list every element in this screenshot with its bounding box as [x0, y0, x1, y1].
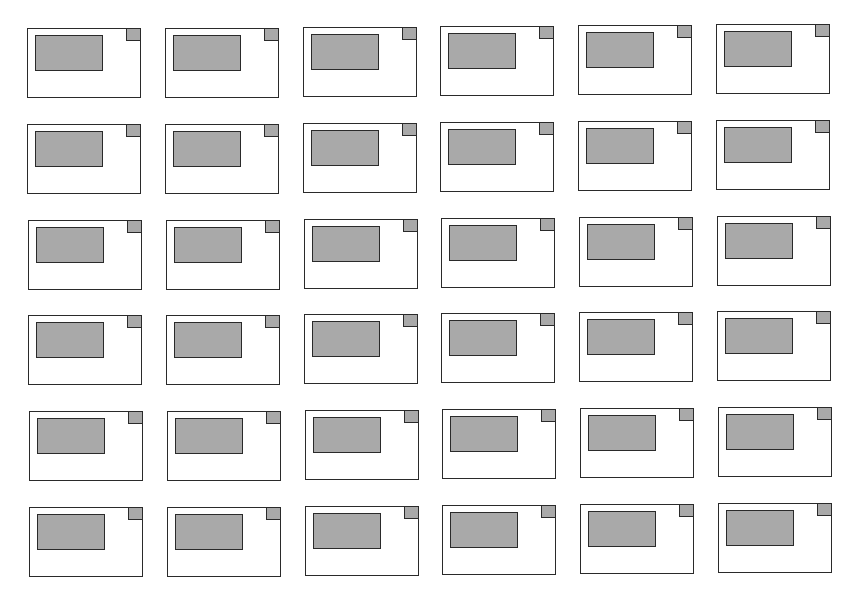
corner-tab-icon [126, 124, 141, 137]
card-thumbnail[interactable] [578, 121, 692, 191]
content-block [725, 318, 793, 354]
corner-tab-icon [266, 411, 281, 424]
card-thumbnail[interactable] [579, 312, 693, 382]
content-block [726, 414, 794, 450]
card-thumbnail[interactable] [441, 313, 555, 383]
card-thumbnail[interactable] [718, 407, 832, 477]
corner-tab-icon [677, 25, 692, 38]
card-thumbnail[interactable] [303, 123, 417, 193]
card-thumbnail[interactable] [28, 315, 142, 385]
card-thumbnail[interactable] [29, 507, 143, 577]
content-block [35, 35, 103, 71]
card-thumbnail[interactable] [165, 124, 279, 194]
card-thumbnail[interactable] [27, 124, 141, 194]
card-thumbnail[interactable] [580, 504, 694, 574]
content-block [174, 227, 242, 263]
content-block [449, 225, 517, 261]
card-thumbnail[interactable] [717, 311, 831, 381]
content-block [37, 418, 105, 454]
card-thumbnail[interactable] [717, 216, 831, 286]
card-thumbnail[interactable] [28, 220, 142, 290]
card-thumbnail[interactable] [304, 314, 418, 384]
content-block [587, 224, 655, 260]
corner-tab-icon [539, 122, 554, 135]
content-block [175, 418, 243, 454]
corner-tab-icon [541, 409, 556, 422]
card-thumbnail[interactable] [442, 409, 556, 479]
corner-tab-icon [403, 219, 418, 232]
corner-tab-icon [540, 313, 555, 326]
card-thumbnail[interactable] [304, 219, 418, 289]
corner-tab-icon [817, 407, 832, 420]
card-thumbnail[interactable] [579, 217, 693, 287]
corner-tab-icon [816, 216, 831, 229]
corner-tab-icon [539, 26, 554, 39]
card-thumbnail[interactable] [27, 28, 141, 98]
card-thumbnail[interactable] [167, 507, 281, 577]
content-block [450, 512, 518, 548]
corner-tab-icon [265, 315, 280, 328]
card-thumbnail[interactable] [716, 24, 830, 94]
card-thumbnail[interactable] [305, 506, 419, 576]
card-thumbnail[interactable] [718, 503, 832, 573]
card-thumbnail[interactable] [167, 411, 281, 481]
corner-tab-icon [404, 506, 419, 519]
content-block [35, 131, 103, 167]
corner-tab-icon [541, 505, 556, 518]
card-thumbnail[interactable] [442, 505, 556, 575]
content-block [586, 128, 654, 164]
content-block [725, 223, 793, 259]
corner-tab-icon [266, 507, 281, 520]
corner-tab-icon [679, 504, 694, 517]
content-block [175, 514, 243, 550]
card-thumbnail[interactable] [165, 28, 279, 98]
content-block [312, 321, 380, 357]
content-block [448, 33, 516, 69]
card-thumbnail[interactable] [303, 27, 417, 97]
content-block [588, 511, 656, 547]
content-block [586, 32, 654, 68]
corner-tab-icon [817, 503, 832, 516]
corner-tab-icon [678, 312, 693, 325]
content-block [37, 514, 105, 550]
card-thumbnail[interactable] [716, 120, 830, 190]
card-thumbnail[interactable] [166, 220, 280, 290]
card-thumbnail[interactable] [580, 408, 694, 478]
card-thumbnail[interactable] [578, 25, 692, 95]
corner-tab-icon [126, 28, 141, 41]
content-block [36, 227, 104, 263]
corner-tab-icon [815, 120, 830, 133]
card-thumbnail[interactable] [440, 122, 554, 192]
content-block [588, 415, 656, 451]
content-block [173, 35, 241, 71]
corner-tab-icon [404, 410, 419, 423]
corner-tab-icon [264, 28, 279, 41]
corner-tab-icon [128, 507, 143, 520]
content-block [311, 130, 379, 166]
card-thumbnail[interactable] [440, 26, 554, 96]
corner-tab-icon [816, 311, 831, 324]
content-block [724, 127, 792, 163]
content-block [36, 322, 104, 358]
card-thumbnail[interactable] [441, 218, 555, 288]
content-block [726, 510, 794, 546]
corner-tab-icon [402, 123, 417, 136]
content-block [312, 226, 380, 262]
content-block [448, 129, 516, 165]
card-thumbnail[interactable] [29, 411, 143, 481]
card-thumbnail[interactable] [305, 410, 419, 480]
corner-tab-icon [678, 217, 693, 230]
card-thumbnail[interactable] [166, 315, 280, 385]
content-block [450, 416, 518, 452]
content-block [587, 319, 655, 355]
content-block [313, 513, 381, 549]
corner-tab-icon [815, 24, 830, 37]
corner-tab-icon [265, 220, 280, 233]
corner-tab-icon [127, 220, 142, 233]
content-block [313, 417, 381, 453]
content-block [449, 320, 517, 356]
content-block [724, 31, 792, 67]
corner-tab-icon [127, 315, 142, 328]
corner-tab-icon [679, 408, 694, 421]
corner-tab-icon [264, 124, 279, 137]
